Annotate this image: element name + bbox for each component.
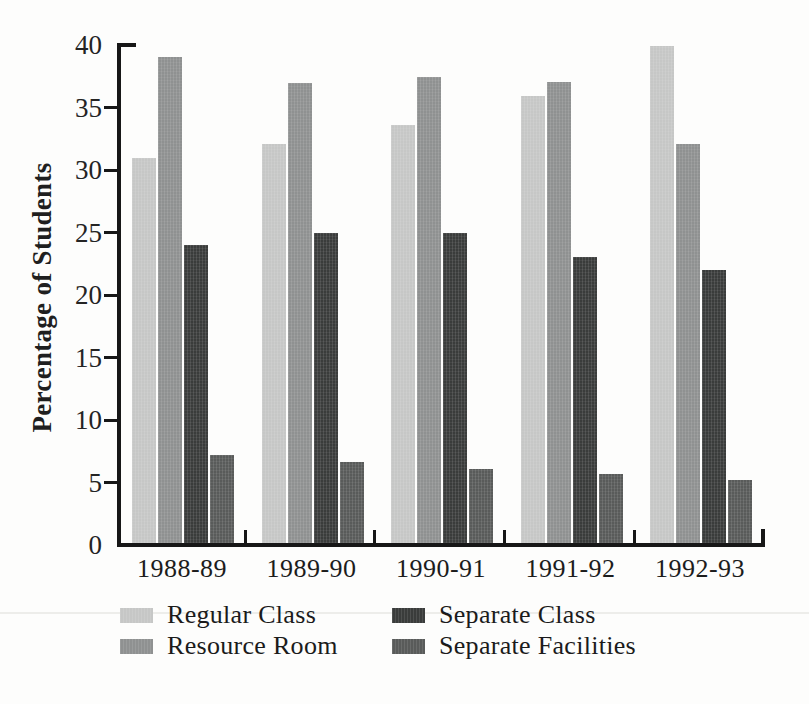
y-tick-30	[104, 169, 117, 172]
x-group-tick-2	[373, 530, 376, 543]
bar-regular-class-1990-91	[391, 125, 415, 543]
y-tick-5	[104, 481, 117, 484]
bar-separate-facilities-1992-93	[728, 480, 752, 543]
x-label-1992-93: 1992-93	[630, 554, 770, 584]
legend-label-resource-room: Resource Room	[167, 632, 338, 660]
bar-resource-room-1992-93	[676, 144, 700, 543]
y-tick-10	[104, 419, 117, 422]
bar-resource-room-1991-92	[547, 82, 571, 543]
bar-separate-facilities-1991-92	[599, 474, 623, 543]
legend-item-regular-class: Regular Class	[120, 600, 316, 630]
bar-regular-class-1992-93	[650, 46, 674, 543]
legend-swatch-resource-room	[120, 639, 153, 654]
x-group-tick-3	[503, 530, 506, 543]
legend-item-separate-class: Separate Class	[392, 600, 596, 630]
bar-separate-class-1989-90	[314, 233, 338, 543]
y-tick-25	[104, 231, 117, 234]
y-tick-label-5: 5	[56, 469, 102, 496]
bar-resource-room-1990-91	[417, 77, 441, 543]
legend-item-resource-room: Resource Room	[120, 631, 338, 661]
legend-swatch-separate-facilities	[392, 639, 425, 654]
bar-regular-class-1988-89	[132, 158, 156, 543]
bar-separate-class-1992-93	[702, 270, 726, 543]
bar-regular-class-1989-90	[262, 144, 286, 543]
bar-regular-class-1991-92	[521, 96, 545, 543]
y-tick-label-20: 20	[56, 282, 102, 309]
y-axis-line	[117, 43, 121, 547]
legend-swatch-separate-class	[392, 608, 425, 623]
y-tick-15	[104, 356, 117, 359]
y-tick-20	[104, 294, 117, 297]
y-tick-label-40: 40	[56, 32, 102, 59]
y-tick-label-30: 30	[56, 157, 102, 184]
bar-separate-facilities-1990-91	[469, 469, 493, 543]
y-tick-35	[104, 106, 117, 109]
bar-separate-class-1990-91	[443, 233, 467, 543]
y-tick-label-0: 0	[56, 532, 102, 559]
x-group-tick-4	[633, 530, 636, 543]
x-label-1990-91: 1990-91	[371, 554, 511, 584]
legend-label-regular-class: Regular Class	[167, 601, 316, 629]
bar-separate-class-1988-89	[184, 245, 208, 543]
x-axis-line	[117, 543, 765, 547]
x-group-tick-1	[244, 530, 247, 543]
x-label-1991-92: 1991-92	[501, 554, 641, 584]
legend-swatch-regular-class	[120, 608, 153, 623]
y-tick-label-10: 10	[56, 407, 102, 434]
y-axis-title: Percentage of Students	[27, 98, 58, 498]
y-tick-label-35: 35	[56, 94, 102, 121]
x-label-1988-89: 1988-89	[112, 554, 252, 584]
x-axis-right-cap	[761, 529, 765, 547]
chart-canvas: Percentage of Students 0510152025303540 …	[0, 0, 809, 704]
y-tick-label-15: 15	[56, 344, 102, 371]
bar-resource-room-1989-90	[288, 83, 312, 543]
legend-item-separate-facilities: Separate Facilities	[392, 631, 636, 661]
x-label-1989-90: 1989-90	[242, 554, 382, 584]
bar-separate-class-1991-92	[573, 257, 597, 543]
y-tick-label-25: 25	[56, 219, 102, 246]
bar-separate-facilities-1988-89	[210, 455, 234, 543]
bar-resource-room-1988-89	[158, 57, 182, 543]
y-axis-top-cap	[121, 43, 136, 47]
legend-label-separate-class: Separate Class	[439, 601, 596, 629]
bar-separate-facilities-1989-90	[340, 462, 364, 543]
legend-label-separate-facilities: Separate Facilities	[439, 632, 636, 660]
